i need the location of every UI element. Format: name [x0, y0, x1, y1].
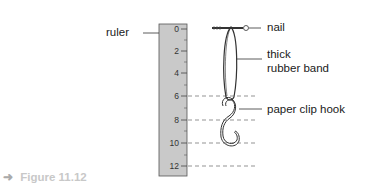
paper-clip-hook-label: paper clip hook	[267, 103, 345, 116]
figure-caption-text: Figure 11.12	[20, 171, 86, 183]
rubber-band-label-line2: rubber band	[267, 62, 329, 75]
rubber-band-label-line1: thick	[267, 48, 291, 61]
diagram-canvas: 0 2 4 6 8 10 12	[0, 0, 370, 188]
ruler-tick-6: 6	[174, 91, 179, 101]
ruler-label: ruler	[106, 26, 129, 39]
figure-caption: ➜ Figure 11.12	[3, 170, 87, 184]
nail-label: nail	[267, 21, 285, 34]
ruler	[159, 24, 187, 176]
ruler-tick-12: 12	[170, 161, 180, 171]
arrow-right-icon: ➜	[3, 171, 13, 183]
ruler-tick-8: 8	[174, 115, 179, 125]
ruler-tick-0: 0	[174, 24, 179, 34]
ruler-tick-2: 2	[174, 46, 179, 56]
nail-icon	[212, 26, 261, 31]
rubber-band-icon	[224, 27, 237, 100]
ruler-tick-4: 4	[174, 68, 179, 78]
paper-clip-hook-icon	[221, 97, 240, 146]
ruler-tick-10: 10	[170, 138, 180, 148]
